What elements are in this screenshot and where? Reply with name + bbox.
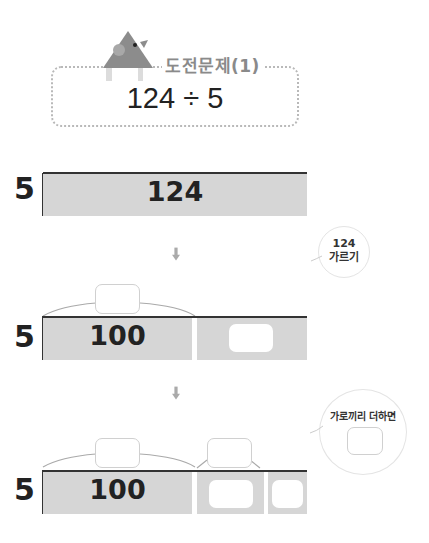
- triangle-bird-mascot-icon: [100, 28, 156, 84]
- hint-text-line2: 가르기: [318, 251, 370, 265]
- answer-box-part-2[interactable]: [209, 480, 253, 508]
- answer-box-quotient-100[interactable]: [95, 438, 140, 468]
- bar-value: 100: [43, 474, 192, 505]
- answer-box-part-3[interactable]: [272, 480, 303, 508]
- bar-value: 100: [43, 320, 192, 351]
- hint-text-line1: 124: [318, 237, 370, 251]
- down-arrow-icon: [172, 247, 180, 261]
- hint-text: 가로끼리 더하면: [319, 410, 407, 424]
- problem-expression: 124 ÷ 5: [51, 82, 299, 115]
- bar-top-line: [43, 470, 307, 472]
- bubble-tail: [309, 425, 323, 435]
- bar-top-line: [43, 172, 307, 174]
- bar-top-line: [43, 316, 307, 318]
- challenge-title: 도전문제(1): [162, 52, 263, 77]
- answer-box-quotient-20[interactable]: [207, 438, 252, 468]
- answer-box-sum[interactable]: [347, 427, 383, 455]
- divisor-label: 5: [14, 171, 35, 206]
- bar-value: 124: [43, 176, 307, 207]
- divisor-label: 5: [14, 472, 35, 507]
- down-arrow-icon: [172, 386, 180, 400]
- answer-box-remainder[interactable]: [229, 324, 273, 352]
- answer-box-quotient-100[interactable]: [95, 284, 140, 314]
- divisor-label: 5: [14, 319, 35, 354]
